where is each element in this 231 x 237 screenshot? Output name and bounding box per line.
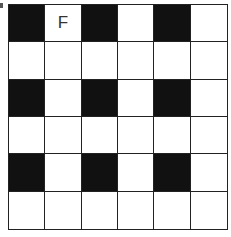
grid-cell[interactable] — [9, 192, 45, 229]
black-cell — [9, 5, 45, 42]
grid-cell[interactable] — [154, 192, 190, 229]
grid-cell[interactable] — [118, 192, 154, 229]
corner-mark — [0, 3, 3, 8]
black-cell — [154, 5, 190, 42]
black-cell — [82, 5, 118, 42]
grid-cell[interactable]: F — [45, 5, 81, 42]
grid-cell[interactable] — [191, 80, 227, 117]
grid-cell[interactable] — [9, 42, 45, 79]
black-cell — [82, 80, 118, 117]
black-cell — [9, 154, 45, 191]
grid-cell[interactable] — [118, 117, 154, 154]
grid-cell[interactable] — [191, 154, 227, 191]
black-cell — [154, 80, 190, 117]
grid-cell[interactable] — [118, 80, 154, 117]
grid-cell[interactable] — [45, 192, 81, 229]
grid-cell[interactable] — [191, 5, 227, 42]
grid-cell[interactable] — [191, 42, 227, 79]
black-cell — [82, 154, 118, 191]
grid-cell[interactable] — [191, 117, 227, 154]
grid-cell[interactable] — [9, 117, 45, 154]
grid-cell[interactable] — [45, 80, 81, 117]
grid-cell[interactable] — [118, 5, 154, 42]
black-cell — [154, 154, 190, 191]
grid-cell[interactable] — [118, 154, 154, 191]
grid-cell[interactable] — [154, 42, 190, 79]
grid-cell[interactable] — [154, 117, 190, 154]
grid-cell[interactable] — [45, 117, 81, 154]
grid-cell[interactable] — [82, 192, 118, 229]
puzzle-grid: F — [8, 4, 228, 230]
grid-cell[interactable] — [191, 192, 227, 229]
grid-cell[interactable] — [45, 154, 81, 191]
grid-cell[interactable] — [45, 42, 81, 79]
grid-cell[interactable] — [82, 117, 118, 154]
grid-cell[interactable] — [118, 42, 154, 79]
grid-cell[interactable] — [82, 42, 118, 79]
black-cell — [9, 80, 45, 117]
